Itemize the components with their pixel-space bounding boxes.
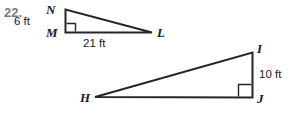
measure-label-nm: 6 ft xyxy=(14,15,31,27)
triangle-hij: H I J 10 ft xyxy=(79,41,282,106)
figures-canvas: 22. N M L 6 ft 21 ft H I J 10 ft xyxy=(0,0,299,113)
measure-label-ml: 21 ft xyxy=(83,37,106,49)
vertex-label-i: I xyxy=(256,41,263,56)
right-angle-marker-m xyxy=(67,24,76,32)
triangle-hij-outline xyxy=(95,53,253,98)
vertex-label-n: N xyxy=(45,2,56,17)
right-angle-marker-j xyxy=(239,85,252,97)
vertex-label-m: M xyxy=(45,25,58,40)
measure-label-ij: 10 ft xyxy=(259,68,282,80)
triangle-nml: N M L 6 ft 21 ft xyxy=(14,2,165,49)
triangle-nml-outline xyxy=(66,10,153,33)
vertex-label-l: L xyxy=(156,25,165,40)
vertex-label-h: H xyxy=(79,90,91,105)
geometry-problem-figure: 22. N M L 6 ft 21 ft H I J 10 ft xyxy=(0,0,299,113)
vertex-label-j: J xyxy=(256,91,264,106)
